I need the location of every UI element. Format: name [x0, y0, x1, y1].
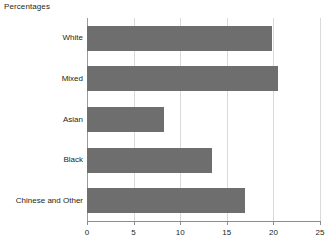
bar — [87, 188, 245, 213]
bar — [87, 26, 272, 51]
category-label: Asian — [0, 115, 83, 124]
tick-mark-20 — [273, 221, 274, 225]
bar-row — [87, 148, 320, 173]
x-tick-label: 15 — [215, 228, 239, 237]
x-tick-label: 10 — [168, 228, 192, 237]
x-tick-label: 20 — [261, 228, 285, 237]
gridline-25 — [320, 18, 321, 221]
tick-mark-0 — [87, 221, 88, 225]
plot-area — [87, 18, 320, 221]
tick-mark-10 — [180, 221, 181, 225]
bar-chart: Percentages 0510152025 WhiteMixedAsianBl… — [0, 0, 331, 247]
bar-row — [87, 188, 320, 213]
category-label: Mixed — [0, 74, 83, 83]
tick-mark-25 — [320, 221, 321, 225]
bar — [87, 148, 212, 173]
category-label: White — [0, 33, 83, 42]
x-tick-label: 25 — [308, 228, 331, 237]
bar-row — [87, 26, 320, 51]
category-label: Chinese and Other — [0, 196, 83, 205]
bar-row — [87, 66, 320, 91]
bar — [87, 66, 278, 91]
bar — [87, 107, 164, 132]
x-tick-label: 5 — [122, 228, 146, 237]
bar-row — [87, 107, 320, 132]
x-tick-label: 0 — [75, 228, 99, 237]
tick-mark-15 — [227, 221, 228, 225]
chart-title: Percentages — [4, 2, 50, 11]
category-label: Black — [0, 155, 83, 164]
x-axis-line — [87, 221, 320, 222]
tick-mark-5 — [134, 221, 135, 225]
